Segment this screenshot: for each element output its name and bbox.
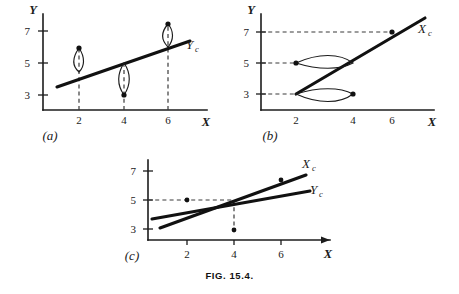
data-point bbox=[389, 29, 394, 34]
x-tick-label-2-a: 2 bbox=[76, 114, 82, 126]
x-tick-label-2-c: 2 bbox=[184, 248, 190, 260]
panel-b: 7 5 3 2 4 6 Y X X c (b) bbox=[220, 0, 459, 147]
curve-label-yc-sub-c: c bbox=[319, 189, 323, 199]
regression-line-xc-b bbox=[296, 18, 425, 94]
y-tick-label-3-c: 3 bbox=[131, 223, 137, 235]
panel-label-c: (c) bbox=[125, 248, 139, 263]
data-point bbox=[165, 21, 170, 26]
curve-label-xc-c: X bbox=[301, 156, 311, 171]
data-point bbox=[279, 178, 284, 183]
deviation-loop-y5-b bbox=[296, 56, 353, 69]
panel-label-b: (b) bbox=[262, 128, 277, 143]
regression-line-xc-c bbox=[160, 175, 306, 228]
y-tick-label-7-c: 7 bbox=[131, 165, 137, 177]
x-axis-label-a: X bbox=[201, 115, 211, 129]
panel-label-a: (a) bbox=[42, 128, 57, 143]
y-axis-label-b: Y bbox=[247, 3, 256, 17]
x-tick-label-2-b: 2 bbox=[293, 114, 299, 126]
panel-a: 7 5 3 2 4 6 Y X Y c (a) bbox=[0, 0, 230, 147]
y-tick-label-3-a: 3 bbox=[25, 89, 31, 101]
panel-a-plot: 7 5 3 2 4 6 Y X Y c (a) bbox=[0, 0, 230, 147]
y-tick-label-5-a: 5 bbox=[25, 57, 31, 69]
figure-15-4: 7 5 3 2 4 6 Y X Y c (a) bbox=[0, 0, 459, 294]
x-axis-arrow-c bbox=[321, 237, 330, 244]
x-tick-label-4-b: 4 bbox=[350, 114, 356, 126]
x-tick-label-6-b: 6 bbox=[389, 114, 395, 126]
curve-label-yc-c: Y bbox=[310, 182, 319, 197]
x-tick-label-4-c: 4 bbox=[231, 248, 237, 260]
y-tick-label-7-b: 7 bbox=[244, 26, 250, 38]
regression-line-yc-c bbox=[152, 191, 310, 219]
x-axis-label-c: X bbox=[323, 247, 333, 261]
curve-label-yc-a: Y bbox=[186, 37, 195, 52]
x-axis-label-b: X bbox=[427, 115, 437, 129]
panel-c-plot: 7 5 3 2 4 6 X X c Y c (c) bbox=[110, 148, 360, 268]
figure-caption: FIG. 15.4. bbox=[0, 270, 459, 281]
data-point bbox=[76, 45, 81, 50]
curve-label-xc-sub-c: c bbox=[312, 163, 316, 173]
y-tick-label-7-a: 7 bbox=[25, 25, 31, 37]
data-point bbox=[293, 60, 298, 65]
panel-c: 7 5 3 2 4 6 X X c Y c (c) bbox=[110, 148, 360, 268]
data-point bbox=[121, 92, 126, 97]
curve-label-yc-sub-a: c bbox=[195, 44, 199, 54]
data-point bbox=[185, 198, 190, 203]
panel-b-plot: 7 5 3 2 4 6 Y X X c (b) bbox=[220, 0, 459, 147]
curve-label-xc-sub-b: c bbox=[428, 28, 432, 38]
data-point bbox=[232, 228, 237, 233]
curve-label-xc-b: X bbox=[417, 21, 427, 36]
y-tick-label-3-b: 3 bbox=[244, 88, 250, 100]
x-tick-label-4-a: 4 bbox=[121, 114, 127, 126]
data-point bbox=[350, 91, 355, 96]
y-axis-label-a: Y bbox=[29, 3, 38, 17]
x-tick-label-6-a: 6 bbox=[165, 114, 171, 126]
x-tick-label-6-c: 6 bbox=[278, 248, 284, 260]
y-tick-label-5-b: 5 bbox=[244, 57, 250, 69]
y-tick-label-5-c: 5 bbox=[131, 194, 137, 206]
